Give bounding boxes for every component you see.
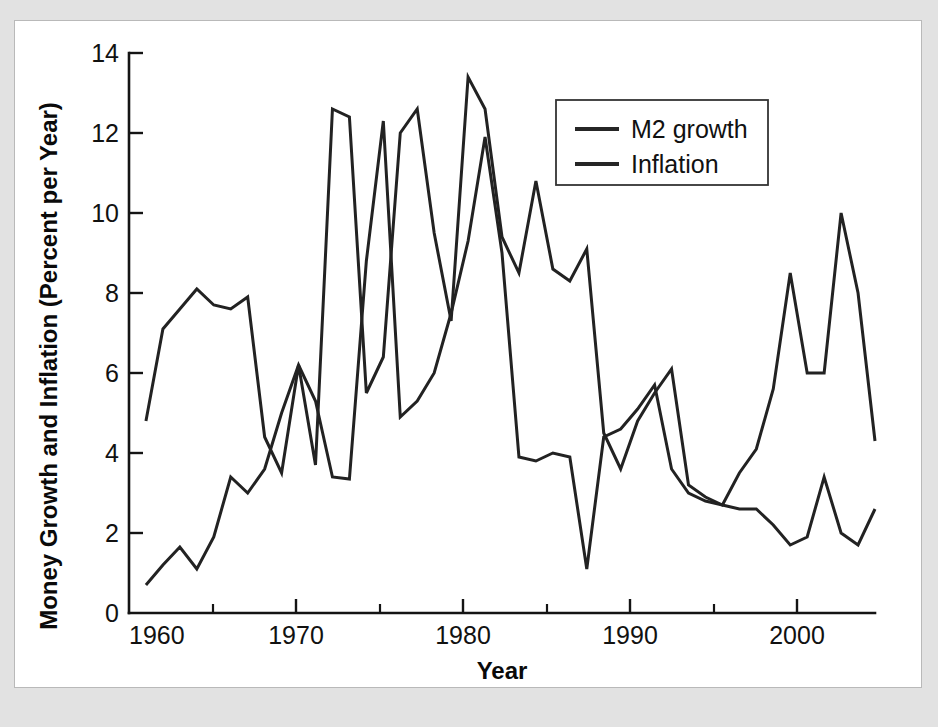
line-chart-svg: Money Growth and Inflation (Percent per … <box>15 21 923 689</box>
y-tick-label: 8 <box>105 279 119 307</box>
legend-label-m2-growth: M2 growth <box>631 115 748 143</box>
y-tick-label: 2 <box>105 519 119 547</box>
x-tick-label: 2000 <box>769 621 825 649</box>
y-tick-label: 0 <box>105 599 119 627</box>
legend-label-inflation: Inflation <box>631 150 719 178</box>
chart-area: Money Growth and Inflation (Percent per … <box>15 21 923 689</box>
y-tick-label: 4 <box>105 439 119 467</box>
x-tick-label: 1970 <box>268 621 324 649</box>
x-axis-title: Year <box>477 657 528 684</box>
y-tick-label: 10 <box>91 199 119 227</box>
x-tick-label: 1990 <box>602 621 658 649</box>
y-axis-title: Money Growth and Inflation (Percent per … <box>35 102 62 630</box>
y-tick-label: 12 <box>91 119 119 147</box>
x-tick-label: 1980 <box>435 621 491 649</box>
x-tick-label: 1960 <box>129 621 185 649</box>
y-tick-label: 6 <box>105 359 119 387</box>
chart-legend: M2 growth Inflation <box>556 100 768 185</box>
x-tick-labels: 1960 1970 1980 1990 2000 <box>129 621 825 649</box>
figure-page: Money Growth and Inflation (Percent per … <box>14 20 922 688</box>
y-tick-labels: 14 12 10 8 6 4 2 0 <box>91 39 119 627</box>
y-ticks <box>129 53 143 533</box>
y-tick-label: 14 <box>91 39 119 67</box>
